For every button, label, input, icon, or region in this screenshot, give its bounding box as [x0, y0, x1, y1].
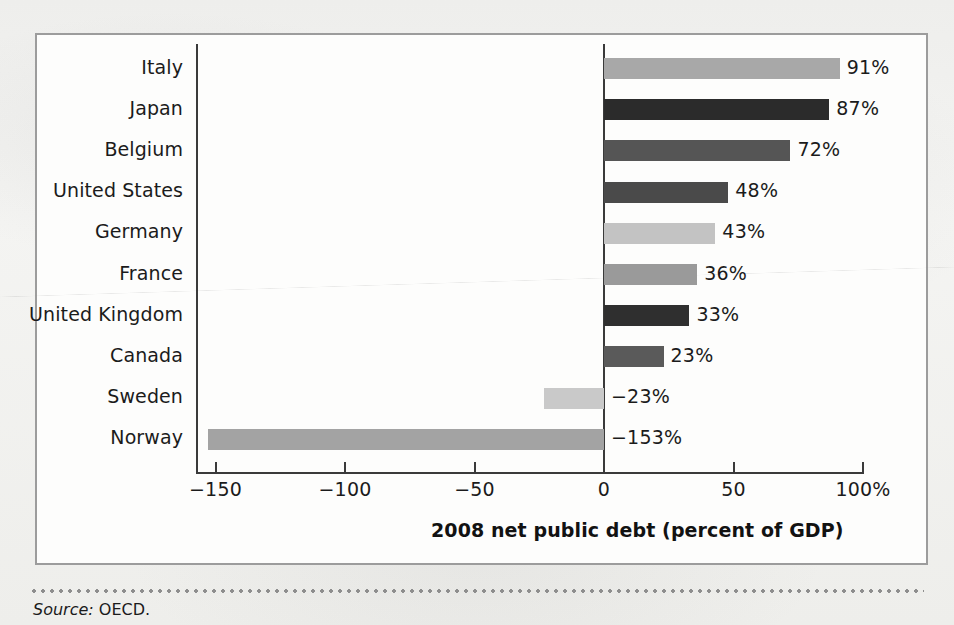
source-label: Source: — [33, 600, 94, 619]
x-axis-title: 2008 net public debt (percent of GDP) — [431, 519, 844, 541]
source-text: OECD. — [99, 600, 150, 619]
figure-frame — [35, 33, 928, 565]
dotted-divider — [32, 589, 924, 593]
source-note: Source: OECD. — [33, 600, 150, 619]
